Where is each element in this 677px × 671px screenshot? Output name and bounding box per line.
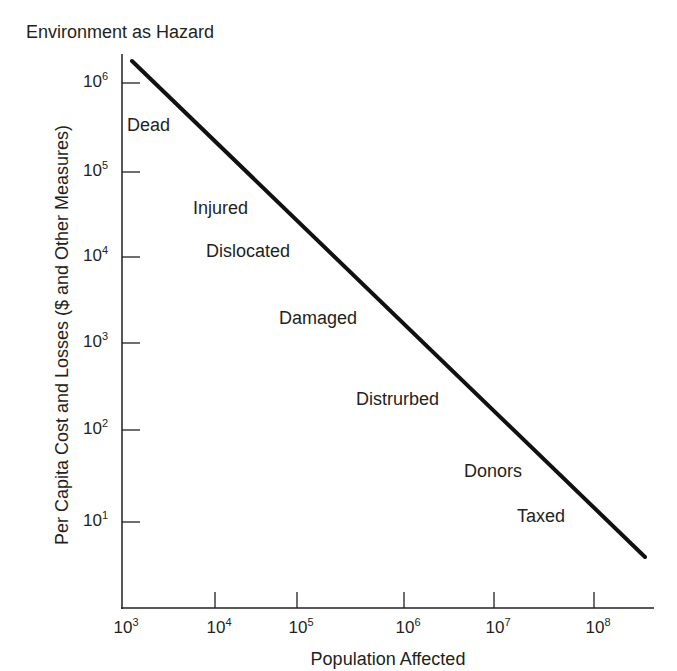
y-ticks [122, 83, 140, 522]
annotation-disturbed: Distrurbed [356, 389, 439, 410]
x-tick-label-1e5: 105 [288, 618, 313, 638]
x-tick-label-1e3: 103 [113, 618, 138, 638]
y-tick-label-1e3: 103 [68, 332, 108, 352]
annotation-dead: Dead [127, 115, 170, 136]
x-tick-label-1e4: 104 [206, 618, 231, 638]
annotation-donors: Donors [464, 461, 522, 482]
x-tick-label-1e7: 107 [485, 618, 510, 638]
annotation-damaged: Damaged [279, 308, 357, 329]
y-tick-label-1e1: 101 [68, 511, 108, 531]
annotation-taxed: Taxed [517, 506, 565, 527]
y-tick-label-1e6: 106 [68, 72, 108, 92]
x-tick-label-1e8: 108 [585, 618, 610, 638]
y-tick-label-1e5: 105 [68, 161, 108, 181]
annotation-dislocated: Dislocated [206, 241, 290, 262]
hazard-line [132, 61, 645, 557]
y-tick-label-1e4: 104 [68, 246, 108, 266]
x-tick-label-1e6: 106 [395, 618, 420, 638]
x-ticks [215, 592, 594, 608]
y-tick-label-1e2: 102 [68, 419, 108, 439]
annotation-injured: Injured [193, 198, 248, 219]
